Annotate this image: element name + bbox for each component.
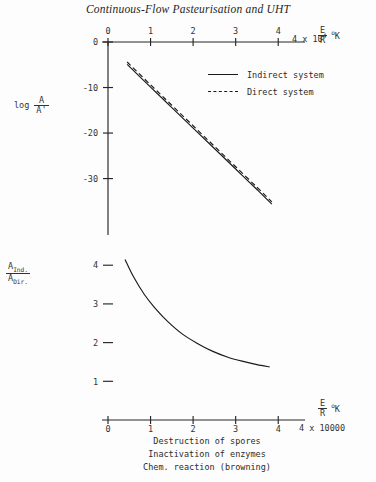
bottom-y-axis-fraction: AInd. ADir. [6,262,30,285]
x-tick-label: 2 [191,26,196,36]
top-chart-plot: 012340-10-20-30 [83,26,305,235]
top-chart-panel: 012340-10-20-30 [0,20,376,230]
y-tick-label: -30 [83,174,98,184]
x-tick-label: 4 [276,26,281,36]
legend-label-direct: Direct system [247,87,314,97]
figure-page: Continuous-Flow Pasteurisation and UHT 0… [0,0,376,482]
caption-line-3: Chem. reaction (browning) [92,461,322,474]
top-y-axis-denominator: A' [34,105,48,115]
y-tick-label: 1 [93,377,98,387]
x-tick-label: 2 [191,424,196,434]
top-y-axis-fraction: A A' [34,96,48,114]
y-tick-label: 0 [93,37,98,47]
bottom-x-axis-unit: oK [331,403,340,414]
x-tick-label: 3 [233,26,238,36]
bottom-x-axis-denominator: R [318,408,327,418]
bottom-y-axis-denominator: ADir. [6,273,30,285]
x-tick-label: 0 [105,424,110,434]
y-tick-label: 2 [93,338,98,348]
x-tick-label: 3 [233,424,238,434]
solid-line-icon [208,74,238,76]
top-x-axis-unit: oK [331,30,340,41]
bottom-x-axis-numerator: E [318,399,327,408]
x-tick-label: 1 [148,424,153,434]
bottom-x-axis-label: E R oK [318,399,340,417]
bottom-chart-plot: 012341234 [93,259,305,434]
y-tick-label: -20 [83,128,98,138]
kelvin-symbol: K [335,30,340,40]
x-tick-label: 1 [148,26,153,36]
series-a-ind-a-dir [125,259,270,367]
caption-line-1: Destruction of spores [92,435,322,448]
top-y-axis-numerator: A [34,96,48,105]
legend-item-direct: Direct system [208,83,324,100]
denominator-subscript: Dir. [13,278,28,285]
x-tick-label: 4 [276,424,281,434]
top-y-axis-label: log A A' [14,96,49,114]
y-tick-label: -10 [83,83,98,93]
caption-line-2: Inactivation of enzymes [92,448,322,461]
top-x-axis-multiplier: 4 x 104 [292,33,326,44]
y-tick-label: 4 [93,260,98,270]
top-multiplier-exponent: 4 [323,32,327,39]
bottom-y-axis-label: AInd. ADir. [6,262,30,285]
x-tick-label: 0 [105,26,110,36]
running-head: Continuous-Flow Pasteurisation and UHT [0,3,376,15]
top-y-axis-log: log [14,101,29,110]
dashed-line-icon [208,91,238,93]
legend-label-indirect: Indirect system [247,70,324,80]
top-chart-svg: 012340-10-20-30 [0,20,376,230]
bottom-x-axis-multiplier: 4 x 10000 [299,424,345,433]
legend-item-indirect: Indirect system [208,66,324,83]
numerator-subscript: Ind. [13,266,28,273]
figure-caption: Destruction of spores Inactivation of en… [92,435,322,474]
top-multiplier-value: 4 x 10 [292,34,323,44]
y-tick-label: 3 [93,299,98,309]
legend: Indirect system Direct system [208,66,324,100]
kelvin-symbol: K [335,403,340,413]
bottom-y-axis-numerator: AInd. [6,262,30,273]
bottom-x-axis-fraction: E R [318,399,327,417]
